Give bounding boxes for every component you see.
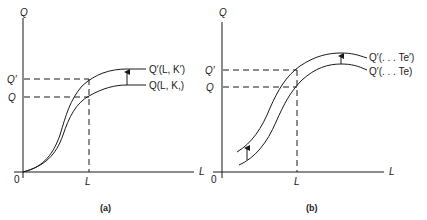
tick-Q-a: Q xyxy=(8,92,16,103)
curve-upper-b xyxy=(237,53,367,152)
tick-Qprime-b: Q′ xyxy=(205,65,216,76)
curve-upper-label-a: Q′(L, K′) xyxy=(149,64,185,75)
origin-label-b: 0 xyxy=(211,174,217,185)
caption-b: (b) xyxy=(306,203,318,213)
caption-a: (a) xyxy=(100,203,111,213)
tick-Qprime-a: Q′ xyxy=(7,74,18,85)
curve-upper-a xyxy=(23,69,146,172)
x-axis-label-a: L xyxy=(199,166,205,177)
diagram-canvas: Q L 0 L Q′ Q Q′(L, K′) Q(L, K,) (a) Q L … xyxy=(0,0,427,220)
panel-a: Q L 0 L Q′ Q Q′(L, K′) Q(L, K,) (a) xyxy=(7,7,205,213)
curve-upper-label-b: Q′(. . . Te′) xyxy=(369,52,414,63)
tick-Q-b: Q xyxy=(206,82,214,93)
tick-L-b: L xyxy=(294,176,300,187)
x-axis-label-b: L xyxy=(389,166,395,177)
y-axis-label-a: Q xyxy=(20,7,28,18)
origin-label-a: 0 xyxy=(14,174,20,185)
y-axis-label-b: Q xyxy=(219,7,227,18)
curve-lower-label-b: Q′(. . . Te) xyxy=(369,66,412,77)
curve-lower-a xyxy=(23,85,146,172)
tick-L-a: L xyxy=(85,176,91,187)
curve-lower-b xyxy=(239,64,367,165)
curve-lower-label-a: Q(L, K,) xyxy=(149,80,184,91)
panel-b: Q L 0 L Q′ Q Q′(. . . Te′) Q′(. . . Te) … xyxy=(205,7,414,213)
